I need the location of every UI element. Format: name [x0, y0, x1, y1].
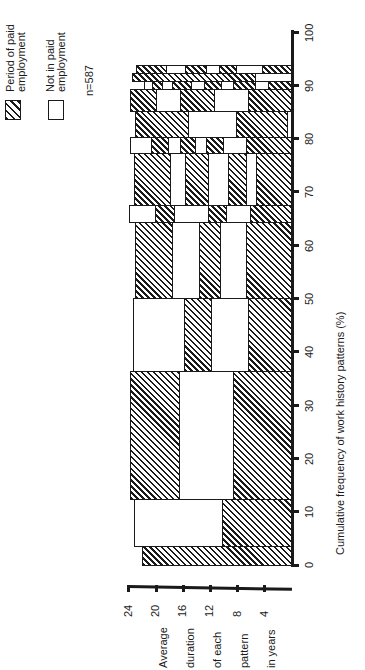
y-axis-tick-label: 20 [149, 605, 161, 617]
x-axis-tick [292, 297, 299, 300]
paid-segment [248, 89, 293, 112]
unpaid-segment [221, 81, 234, 90]
paid-segment [135, 222, 173, 299]
unpaid-segment [255, 81, 270, 90]
x-axis-tick [292, 190, 299, 193]
x-axis-tick-label: 40 [303, 346, 315, 358]
x-axis-tick [292, 244, 299, 247]
unpaid-segment [191, 81, 204, 90]
y-axis-tick-label: 24 [122, 605, 134, 617]
unpaid-segment [170, 153, 185, 206]
unpaid-segment [188, 111, 237, 138]
unpaid-segment [179, 371, 234, 500]
unpaid-segment [172, 222, 200, 299]
paid-segment [135, 111, 189, 138]
paid-segment [172, 81, 192, 90]
paid-segment [256, 153, 293, 206]
x-axis-tick-label: 50 [303, 293, 315, 305]
unpaid-segment [168, 137, 182, 154]
y-axis-tick-label: 12 [203, 605, 215, 617]
unpaid-segment [195, 137, 207, 154]
x-axis-tick [292, 404, 299, 407]
paid-segment [130, 371, 180, 500]
unpaid-segment [223, 137, 247, 154]
x-axis-tick-label: 20 [303, 453, 315, 465]
y-axis-title: Average duration of each pattern in year… [150, 627, 285, 668]
x-axis-tick-label: 100 [303, 23, 315, 41]
x-axis-tick [292, 137, 299, 140]
x-axis-tick [292, 84, 299, 87]
y-axis-tick [127, 585, 130, 592]
paid-segment [268, 81, 293, 90]
unpaid-segment [174, 205, 210, 223]
y-axis-title-line-3: of each [204, 627, 231, 668]
unpaid-segment [129, 205, 156, 223]
paid-segment [204, 81, 222, 90]
unpaid-segment [255, 73, 293, 82]
x-axis-tick-label: 80 [303, 133, 315, 145]
y-axis-title-line-2: duration [177, 627, 204, 668]
paid-segment [236, 111, 288, 138]
paid-segment [134, 153, 171, 206]
paid-segment [185, 153, 210, 206]
x-axis-tick-label: 60 [303, 239, 315, 251]
unpaid-segment [133, 298, 185, 372]
paid-segment [228, 153, 247, 206]
unpaid-segment [236, 65, 263, 74]
y-axis-title-line-5: in years [258, 627, 285, 668]
unpaid-segment [156, 89, 181, 112]
paid-segment [185, 65, 207, 74]
paid-segment [222, 499, 293, 547]
unpaid-segment [162, 81, 173, 90]
paid-segment [151, 137, 168, 154]
unpaid-segment [166, 65, 187, 74]
y-axis-title-line-4: pattern [231, 627, 258, 668]
y-axis-tick [263, 585, 266, 592]
paid-segment [208, 205, 227, 223]
paid-segment [132, 73, 256, 82]
x-axis-tick-label: 30 [303, 399, 315, 411]
y-axis-title-line-1: Average [150, 627, 177, 668]
y-axis-tick [155, 585, 158, 592]
x-axis-title: Cumulative frequency of work history pat… [334, 312, 346, 555]
y-axis-tick [182, 585, 185, 592]
plot-area [0, 0, 365, 670]
paid-segment [219, 65, 238, 74]
paid-segment [206, 137, 223, 154]
unpaid-segment [246, 153, 257, 206]
paid-segment [180, 89, 215, 112]
x-axis-tick [292, 350, 299, 353]
paid-segment [142, 546, 293, 566]
x-axis-tick [292, 564, 299, 567]
unpaid-segment [226, 205, 251, 223]
paid-segment [184, 298, 212, 372]
unpaid-segment [208, 153, 229, 206]
paid-segment [180, 137, 196, 154]
unpaid-segment [211, 298, 249, 372]
x-axis-tick-label: 10 [303, 506, 315, 518]
paid-segment [250, 205, 293, 223]
paid-segment [233, 81, 256, 90]
x-axis-tick [292, 31, 299, 34]
x-axis-tick-label: 0 [303, 562, 315, 568]
y-axis-tick [209, 585, 212, 592]
unpaid-segment [206, 65, 219, 74]
y-axis-tick-label: 4 [258, 611, 270, 617]
unpaid-segment [144, 81, 153, 90]
paid-segment [199, 222, 221, 299]
x-axis-tick-label: 70 [303, 186, 315, 198]
paid-segment [262, 65, 293, 74]
unpaid-segment [214, 89, 249, 112]
unpaid-segment [130, 137, 152, 154]
unpaid-segment [134, 499, 223, 547]
y-axis-tick-label: 8 [231, 611, 243, 617]
paid-segment [246, 222, 293, 299]
y-axis-tick [236, 585, 239, 592]
paid-segment [155, 205, 175, 223]
paid-segment [248, 298, 293, 372]
x-axis-tick [292, 510, 299, 513]
paid-segment [152, 81, 163, 90]
paid-segment [246, 137, 293, 154]
paid-segment [233, 371, 293, 500]
x-axis-tick-label: 90 [303, 79, 315, 91]
